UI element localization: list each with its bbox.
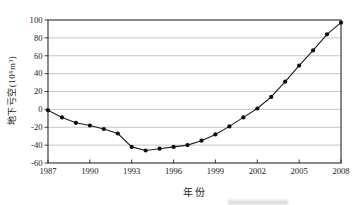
x-tick-label: 2008 — [332, 166, 349, 176]
data-point — [102, 127, 106, 131]
x-tick-label: 2005 — [291, 166, 308, 176]
data-point — [297, 64, 301, 68]
y-tick-label: 100 — [30, 15, 43, 25]
data-point — [172, 145, 176, 149]
data-point — [311, 48, 315, 52]
x-tick-label: 1996 — [165, 166, 183, 176]
data-point — [130, 145, 134, 149]
data-point — [144, 148, 148, 152]
data-point — [88, 123, 92, 127]
cropped-caption-artifact — [228, 200, 288, 205]
data-point — [283, 80, 287, 84]
x-tick-label: 2002 — [249, 166, 266, 176]
x-tick-label: 1999 — [207, 166, 224, 176]
data-point — [60, 115, 64, 119]
y-tick-label: -40 — [31, 140, 42, 150]
y-tick-label: 40 — [34, 68, 43, 78]
data-point — [74, 121, 78, 125]
y-tick-label: -20 — [31, 122, 42, 132]
y-axis-title: 地下亏空(10⁶m³) — [5, 21, 18, 161]
data-point — [46, 108, 50, 112]
data-point — [339, 21, 343, 25]
x-tick-label: 1990 — [81, 166, 98, 176]
y-tick-label: 80 — [34, 33, 43, 43]
data-line — [48, 23, 341, 151]
data-point — [158, 147, 162, 151]
line-chart: -60-40-200204060801001987199019931996199… — [0, 0, 352, 205]
data-point — [241, 115, 245, 119]
data-point — [116, 131, 120, 135]
data-point — [213, 132, 217, 136]
data-point — [255, 106, 259, 110]
x-tick-label: 1987 — [39, 166, 57, 176]
data-point — [199, 139, 203, 143]
data-point — [269, 95, 273, 99]
data-point — [325, 32, 329, 36]
y-tick-label: 20 — [34, 86, 43, 96]
x-axis-title: 年份 — [48, 184, 341, 199]
data-point — [227, 124, 231, 128]
data-point — [185, 143, 189, 147]
chart-figure: 地下亏空(10⁶m³) -60-40-200204060801001987199… — [0, 0, 352, 205]
y-tick-label: 0 — [38, 104, 42, 114]
y-tick-label: 60 — [34, 51, 43, 61]
x-tick-label: 1993 — [123, 166, 140, 176]
